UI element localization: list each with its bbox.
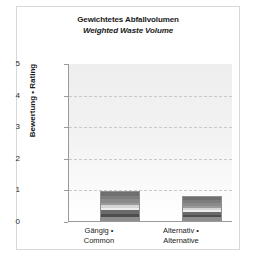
bar-alternative[interactable] (182, 196, 222, 221)
chart-title-block: Gewichtetes Abfallvolumen Weighted Waste… (16, 15, 240, 36)
x-label-common: Gängig • Common (54, 226, 144, 246)
y-tick-mark-0 (64, 222, 68, 223)
y-axis-title: Bewertung • Rating (28, 41, 37, 161)
x-label-alternative-line2: Alternative (136, 236, 226, 246)
plot-area (68, 64, 232, 222)
chart-title-english: Weighted Waste Volume (16, 26, 240, 36)
bar-common[interactable] (100, 191, 140, 221)
x-label-alternative-line1: Alternativ • (136, 226, 226, 236)
gridline-1 (69, 190, 232, 191)
chart-figure: Gewichtetes Abfallvolumen Weighted Waste… (0, 0, 256, 266)
gridline-4 (69, 96, 232, 97)
y-tick-label-3: 3 (0, 122, 20, 131)
y-tick-label-1: 1 (0, 185, 20, 194)
x-label-alternative: Alternativ • Alternative (136, 226, 226, 246)
gridline-2 (69, 159, 232, 160)
y-tick-label-4: 4 (0, 91, 20, 100)
chart-title-german: Gewichtetes Abfallvolumen (16, 15, 240, 25)
y-tick-label-5: 5 (0, 59, 20, 68)
x-label-common-line2: Common (54, 236, 144, 246)
y-tick-label-2: 2 (0, 154, 20, 163)
gridline-3 (69, 127, 232, 128)
y-tick-label-0: 0 (0, 217, 20, 226)
x-label-common-line1: Gängig • (54, 226, 144, 236)
